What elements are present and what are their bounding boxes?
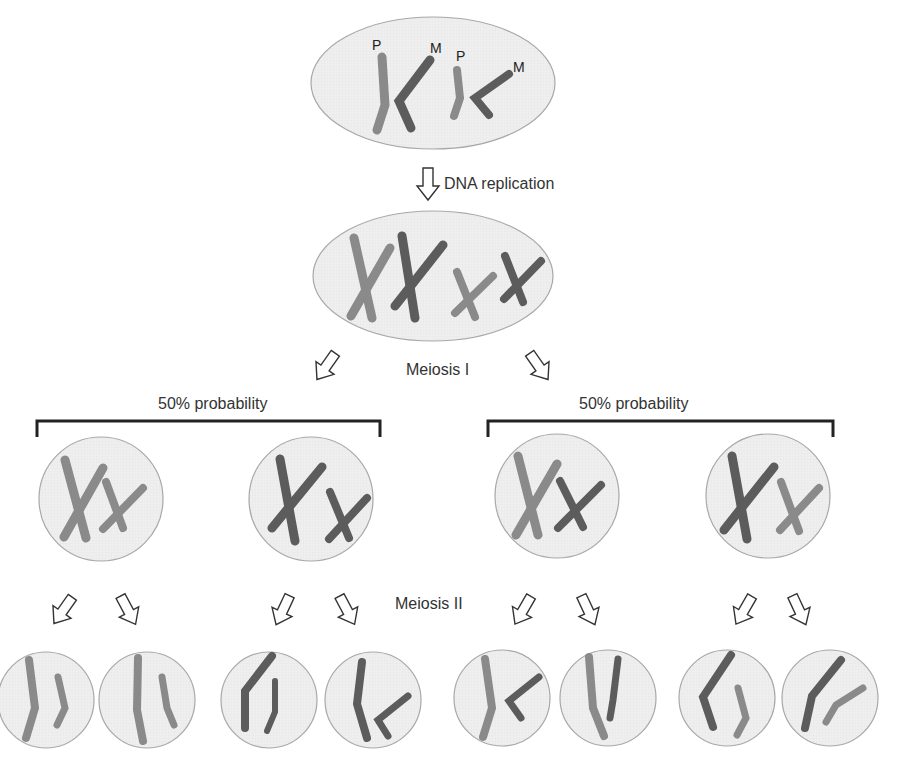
gamete-cell-3 xyxy=(221,652,317,748)
left-bracket xyxy=(37,421,380,437)
gamete-cell-6 xyxy=(560,650,656,746)
label-maternal-2: M xyxy=(513,60,525,74)
meiosis-2-label: Meiosis II xyxy=(395,596,463,612)
meiosis-2-arrow-3-icon xyxy=(266,591,299,629)
left-branch-probability-label: 50% probability xyxy=(158,396,267,412)
right-bracket xyxy=(488,421,833,437)
meiosis-2-arrow-4-icon xyxy=(330,591,364,630)
gamete-cell-1 xyxy=(0,652,94,748)
label-paternal-1: P xyxy=(372,38,381,52)
dna-replication-arrow-icon xyxy=(417,168,439,200)
meiosis-1-cell-4 xyxy=(706,434,830,558)
label-paternal-2: P xyxy=(456,49,465,63)
right-branch-probability-label: 50% probability xyxy=(579,396,688,412)
meiosis-1-label: Meiosis I xyxy=(406,362,469,378)
meiosis-2-arrow-5-icon xyxy=(505,591,540,630)
meiosis-1-right-arrow-icon xyxy=(521,347,557,386)
meiosis-diagram xyxy=(0,0,899,764)
meiosis-2-arrow-2-icon xyxy=(111,591,145,630)
replicated-cell xyxy=(313,211,553,341)
gamete-cell-7 xyxy=(679,650,775,746)
meiosis-1-cell-2 xyxy=(249,437,373,561)
meiosis-2-arrow-6-icon xyxy=(571,591,604,629)
gamete-cell-5 xyxy=(454,650,550,746)
gamete-cell-4 xyxy=(325,652,421,748)
meiosis-2-arrow-7-icon xyxy=(726,591,761,630)
meiosis-2-arrow-1-icon xyxy=(45,591,81,630)
parent-cell xyxy=(311,17,555,149)
gamete-cell-2 xyxy=(99,652,195,748)
gamete-cell-8 xyxy=(782,650,878,746)
meiosis-2-arrow-8-icon xyxy=(782,591,815,629)
meiosis-1-cell-1 xyxy=(39,437,163,561)
label-maternal-1: M xyxy=(430,41,442,55)
meiosis-1-cell-3 xyxy=(495,434,619,558)
meiosis-1-left-arrow-icon xyxy=(308,347,344,386)
dna-replication-label: DNA replication xyxy=(444,176,554,192)
